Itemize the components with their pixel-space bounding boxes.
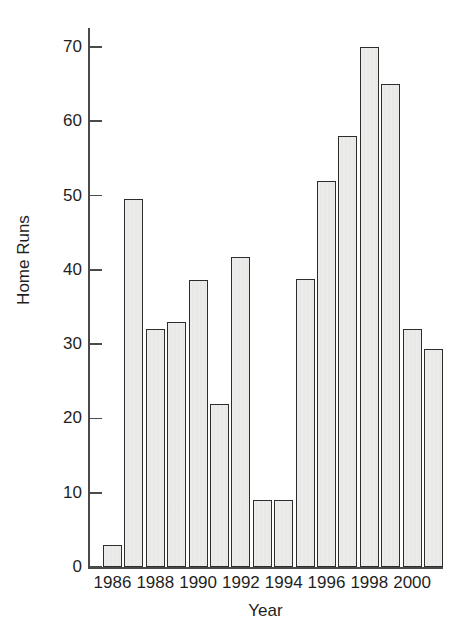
bar bbox=[103, 545, 122, 567]
y-axis-tick-label: 0 bbox=[38, 558, 82, 575]
x-axis-tick-label: 1990 bbox=[174, 573, 222, 592]
bar bbox=[403, 329, 422, 567]
x-axis-tick-label: 1994 bbox=[260, 573, 308, 592]
bar bbox=[360, 47, 379, 567]
bar bbox=[338, 136, 357, 567]
bar bbox=[124, 199, 143, 567]
y-axis-tick-label: 10 bbox=[38, 484, 82, 501]
x-axis-tick-label: 1998 bbox=[345, 573, 393, 592]
y-axis-tick bbox=[90, 566, 102, 568]
y-axis-tick-label: 40 bbox=[38, 261, 82, 278]
bar bbox=[210, 404, 229, 567]
y-axis-tick-label-text: 70 bbox=[42, 38, 82, 55]
y-axis-tick-label: 30 bbox=[38, 335, 82, 352]
bar bbox=[274, 500, 293, 567]
y-axis-tick-label-text: 40 bbox=[42, 261, 82, 278]
y-axis-tick-label-text: 60 bbox=[42, 112, 82, 129]
x-axis-line bbox=[88, 567, 443, 569]
y-axis-tick-label: 70 bbox=[38, 38, 82, 55]
y-axis-tick-label-text: 20 bbox=[42, 409, 82, 426]
x-axis-title: Year bbox=[88, 601, 443, 621]
y-axis-tick-label-text: 0 bbox=[42, 558, 82, 575]
y-axis-tick bbox=[90, 120, 102, 122]
y-axis-line bbox=[88, 28, 90, 568]
y-axis-tick-label: 60 bbox=[38, 112, 82, 129]
bar bbox=[317, 181, 336, 567]
y-axis-tick bbox=[90, 418, 102, 420]
y-axis-tick bbox=[90, 46, 102, 48]
y-axis-tick bbox=[90, 195, 102, 197]
x-axis-tick-label: 1996 bbox=[303, 573, 351, 592]
x-axis-tick-label: 1986 bbox=[89, 573, 137, 592]
bar bbox=[253, 500, 272, 567]
x-axis-tick-label: 1988 bbox=[131, 573, 179, 592]
y-axis-tick-label-text: 10 bbox=[42, 484, 82, 501]
bar bbox=[424, 349, 443, 567]
y-axis-title: Home Runs bbox=[14, 190, 34, 330]
bar bbox=[146, 329, 165, 567]
y-axis-tick-label-text: 30 bbox=[42, 335, 82, 352]
y-axis-tick-label-text: 50 bbox=[42, 187, 82, 204]
x-axis-tick-label: 2000 bbox=[388, 573, 436, 592]
y-axis-tick bbox=[90, 343, 102, 345]
y-axis-tick-label: 20 bbox=[38, 409, 82, 426]
bar bbox=[189, 280, 208, 567]
y-axis-tick bbox=[90, 492, 102, 494]
bar bbox=[296, 279, 315, 567]
bar bbox=[231, 257, 250, 567]
x-axis-tick-label: 1992 bbox=[217, 573, 265, 592]
home-runs-bar-chart: Home Runs by Year 010203040506070 198619… bbox=[0, 0, 465, 639]
bar bbox=[381, 84, 400, 567]
bar bbox=[167, 322, 186, 567]
y-axis-tick-label: 50 bbox=[38, 187, 82, 204]
y-axis-tick bbox=[90, 269, 102, 271]
